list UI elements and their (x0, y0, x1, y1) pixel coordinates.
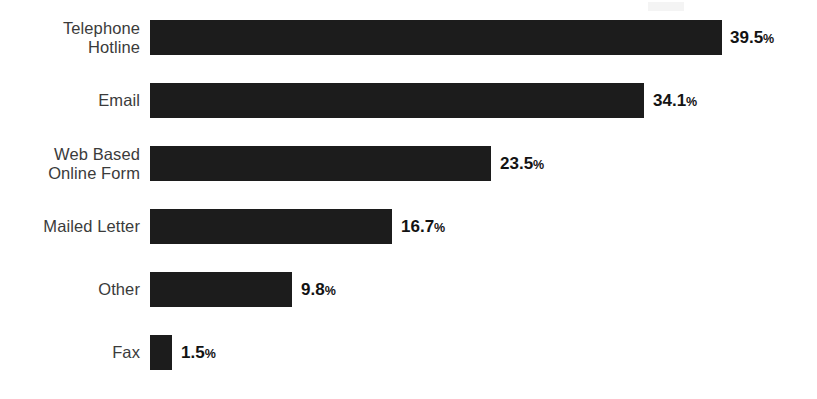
bar-chart: Telephone Hotline 39.5% Email 34.1% Web … (0, 0, 817, 399)
bar-row: Mailed Letter 16.7% (0, 209, 817, 244)
bar-mailed-letter (150, 209, 392, 244)
category-label-line1: Mailed Letter (43, 217, 140, 235)
category-label-line2: Hotline (88, 38, 140, 56)
category-label-line1: Fax (112, 343, 140, 361)
value-label-telephone-hotline: 39.5% (730, 27, 774, 50)
bar-row: Email 34.1% (0, 83, 817, 118)
category-label-line1: Web Based (54, 145, 140, 163)
percent-sign: % (205, 347, 216, 361)
percent-sign: % (533, 158, 544, 172)
category-label-telephone-hotline: Telephone Hotline (0, 19, 140, 57)
value-number: 34.1 (653, 91, 686, 110)
bar-web-based-online-form (150, 146, 491, 181)
bar-telephone-hotline (150, 20, 722, 55)
value-label-mailed-letter: 16.7% (401, 216, 445, 239)
bar-row: Telephone Hotline 39.5% (0, 20, 817, 55)
value-number: 9.8 (301, 280, 325, 299)
percent-sign: % (763, 32, 774, 46)
value-label-email: 34.1% (653, 90, 697, 113)
category-label-email: Email (0, 91, 140, 110)
value-label-web-based-online-form: 23.5% (500, 153, 544, 176)
bar-row: Fax 1.5% (0, 335, 817, 370)
category-label-line2: Online Form (48, 164, 140, 182)
bar-row: Web Based Online Form 23.5% (0, 146, 817, 181)
value-number: 39.5 (730, 28, 763, 47)
category-label-other: Other (0, 280, 140, 299)
percent-sign: % (325, 284, 336, 298)
category-label-line1: Telephone (63, 19, 140, 37)
category-label-line1: Email (98, 91, 140, 109)
value-label-other: 9.8% (301, 279, 336, 302)
value-label-fax: 1.5% (181, 342, 216, 365)
bar-row: Other 9.8% (0, 272, 817, 307)
bar-fax (150, 335, 172, 370)
percent-sign: % (434, 221, 445, 235)
value-number: 23.5 (500, 154, 533, 173)
bar-email (150, 83, 644, 118)
category-label-line1: Other (98, 280, 140, 298)
value-number: 16.7 (401, 217, 434, 236)
scan-artifact (648, 2, 684, 11)
bar-other (150, 272, 292, 307)
category-label-mailed-letter: Mailed Letter (0, 217, 140, 236)
category-label-fax: Fax (0, 343, 140, 362)
value-number: 1.5 (181, 343, 205, 362)
percent-sign: % (686, 95, 697, 109)
category-label-web-based-online-form: Web Based Online Form (0, 145, 140, 183)
